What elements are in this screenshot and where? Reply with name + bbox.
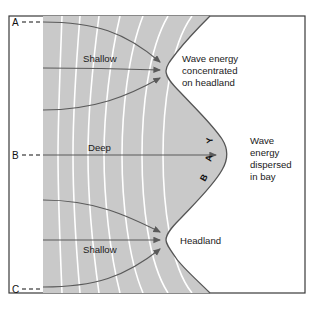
label-deep: Deep xyxy=(88,142,111,153)
annotation-line: on headland xyxy=(182,77,235,88)
label-headland: Headland xyxy=(180,235,221,246)
marker-label-c: C xyxy=(12,284,19,295)
annotation-line: concentrated xyxy=(182,65,237,76)
annotation-energy-concentrated: Wave energy concentrated on headland xyxy=(182,53,238,88)
label-shallow-bottom: Shallow xyxy=(83,244,117,255)
annotation-line: in bay xyxy=(250,171,276,182)
label-shallow-top: Shallow xyxy=(83,53,117,64)
marker-label-a: A xyxy=(12,17,19,28)
marker-label-b: B xyxy=(12,150,19,161)
annotation-line: Wave xyxy=(250,135,274,146)
bay-letter: Y xyxy=(204,137,215,144)
annotation-line: Wave energy xyxy=(182,53,238,64)
wave-refraction-diagram: A B C Shallow Deep Shallow Headland Wave… xyxy=(0,0,315,309)
figure-canvas: A B C Shallow Deep Shallow Headland Wave… xyxy=(0,0,315,309)
annotation-line: dispersed xyxy=(250,159,292,170)
annotation-line: energy xyxy=(250,147,280,158)
